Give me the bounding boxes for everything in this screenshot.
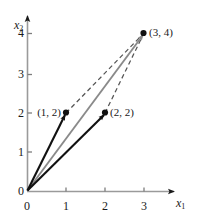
y-tick-label-1: 1 xyxy=(8,146,24,158)
point-3-4 xyxy=(140,30,146,36)
vector-figure: 4 3 2 1 0 0 1 2 3 x2 x1 (1, 2) (2, 2) (3… xyxy=(0,0,199,220)
x-tick-label-1: 1 xyxy=(58,200,74,212)
y-axis-label: x2 xyxy=(14,19,23,31)
construction-lines xyxy=(66,34,144,113)
x-axis-label-subscript: 1 xyxy=(181,202,185,211)
vector-v2-arrow xyxy=(28,115,105,191)
point-2-2 xyxy=(102,109,108,115)
y-tick-label-2: 2 xyxy=(8,107,24,119)
point-label-3-4: (3, 4) xyxy=(149,27,173,38)
y-tick-label-0: 0 xyxy=(8,185,24,197)
axis-lines xyxy=(27,16,174,192)
dashed-line-v2-to-sum xyxy=(105,34,144,113)
x-axis-label: x1 xyxy=(176,197,185,209)
x-tick-label-3: 3 xyxy=(136,200,152,212)
y-tick-label-3: 3 xyxy=(8,68,24,80)
point-label-1-2: (1, 2) xyxy=(37,107,61,118)
dashed-line-v1-to-sum xyxy=(66,34,143,113)
point-label-2-2: (2, 2) xyxy=(110,107,134,118)
x-tick-label-0: 0 xyxy=(19,200,35,212)
point-1-2 xyxy=(63,109,69,115)
x-tick-label-2: 2 xyxy=(97,200,113,212)
vector-v1-arrow xyxy=(28,115,66,191)
y-axis-label-subscript: 2 xyxy=(19,24,23,33)
